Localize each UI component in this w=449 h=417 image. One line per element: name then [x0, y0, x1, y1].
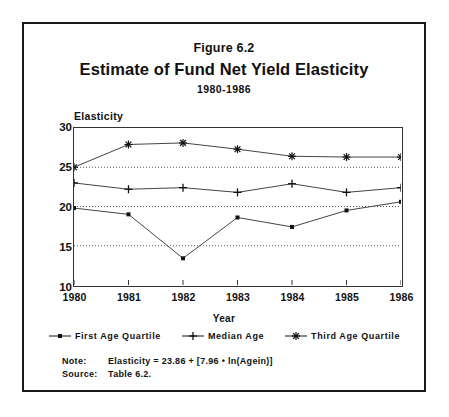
- x-tick-label: 1981: [117, 291, 141, 303]
- legend-label: First Age Quartile: [75, 331, 161, 341]
- figure-title: Estimate of Fund Net Yield Elasticity: [24, 59, 424, 80]
- x-tick-label: 1986: [389, 291, 413, 303]
- note-label: Note:: [62, 355, 108, 368]
- note-line: Note: Elasticity = 23.86 + [7.96 • ln(Ag…: [62, 355, 273, 368]
- square-marker-icon: [181, 256, 185, 260]
- series-line: [74, 202, 401, 259]
- x-tick-label: 1980: [62, 291, 86, 303]
- square-marker-icon: [236, 215, 240, 219]
- series-median-age: [74, 179, 401, 196]
- x-tick-label: 1983: [226, 291, 250, 303]
- legend-label: Third Age Quartile: [311, 331, 400, 341]
- square-marker-icon: [48, 330, 72, 342]
- source-line: Source: Table 6.2.: [62, 368, 273, 381]
- asterisk-marker-icon: [284, 330, 308, 342]
- plot-area: [73, 127, 403, 287]
- chart-svg: [74, 128, 401, 285]
- y-axis-ticks: 1015202530: [38, 127, 72, 287]
- chart-legend: First Age QuartileMedian AgeThird Age Qu…: [24, 330, 424, 342]
- square-marker-icon: [74, 206, 76, 210]
- y-tick-label: 20: [46, 201, 72, 213]
- y-axis-label: Elasticity: [74, 110, 123, 122]
- legend-item: Median Age: [181, 330, 264, 342]
- legend-item: First Age Quartile: [48, 330, 161, 342]
- notes-block: Note: Elasticity = 23.86 + [7.96 • ln(Ag…: [62, 355, 273, 381]
- plus-marker-icon: [181, 330, 205, 342]
- square-marker-icon: [58, 334, 62, 338]
- square-marker-icon: [127, 212, 131, 216]
- figure-period: 1980-1986: [24, 83, 424, 95]
- x-axis-ticks: 1980198119821983198419851986: [73, 291, 403, 307]
- y-tick-label: 25: [46, 161, 72, 173]
- x-tick-label: 1985: [335, 291, 359, 303]
- x-axis-label: Year: [24, 313, 424, 324]
- square-marker-icon: [345, 208, 349, 212]
- series-first-age-quartile: [74, 200, 401, 261]
- y-tick-label: 15: [46, 241, 72, 253]
- square-marker-icon: [290, 225, 294, 229]
- x-tick-label: 1982: [171, 291, 195, 303]
- series-third-age-quartile: [74, 139, 401, 171]
- figure-number: Figure 6.2: [24, 40, 424, 57]
- title-block: Figure 6.2 Estimate of Fund Net Yield El…: [24, 40, 424, 95]
- source-label: Source:: [62, 368, 108, 381]
- legend-label: Median Age: [208, 331, 264, 341]
- note-text: Elasticity = 23.86 + [7.96 • ln(Agein)]: [108, 355, 273, 368]
- figure-frame: Figure 6.2 Estimate of Fund Net Yield El…: [22, 22, 426, 392]
- x-tick-label: 1984: [280, 291, 304, 303]
- square-marker-icon: [399, 200, 401, 204]
- y-tick-label: 30: [46, 121, 72, 133]
- source-text: Table 6.2.: [108, 368, 151, 381]
- legend-item: Third Age Quartile: [284, 330, 400, 342]
